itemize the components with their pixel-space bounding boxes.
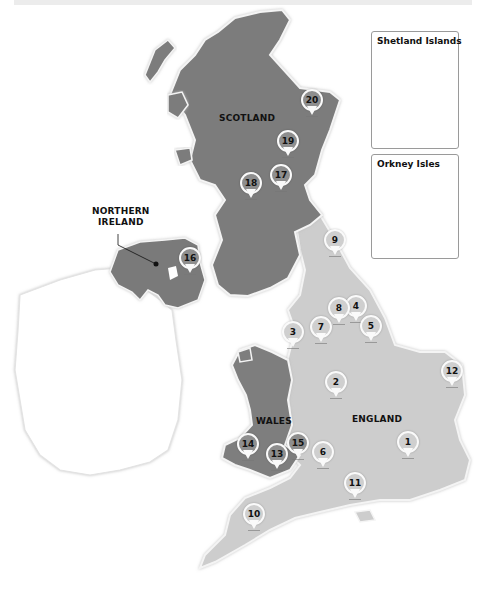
map-pin-13[interactable]: 13 xyxy=(266,443,288,475)
england-label: ENGLAND xyxy=(352,414,402,424)
map-pin-3[interactable]: 3 xyxy=(282,321,304,353)
isle-of-wight xyxy=(355,510,375,522)
western-isles xyxy=(145,40,175,82)
ireland-landmass xyxy=(15,268,182,475)
pin-tail xyxy=(249,520,259,529)
pin-shadow xyxy=(275,191,287,192)
map-pin-6[interactable]: 6 xyxy=(312,441,334,473)
pin-shadow xyxy=(349,499,361,500)
northern-ireland-label-line1: NORTHERN xyxy=(92,206,150,217)
map-pin-8[interactable]: 8 xyxy=(328,297,350,329)
pin-shadow xyxy=(330,398,342,399)
pin-shadow xyxy=(271,470,283,471)
map-pin-16[interactable]: 16 xyxy=(179,247,201,279)
pin-tail xyxy=(185,264,195,273)
shetland-inset: Shetland Islands xyxy=(371,31,459,149)
map-pin-11[interactable]: 11 xyxy=(344,472,366,504)
pin-tail xyxy=(316,333,326,342)
scotland-label: SCOTLAND xyxy=(219,113,275,123)
pin-tail xyxy=(447,377,457,386)
pin-shadow xyxy=(317,468,329,469)
pin-tail xyxy=(276,181,286,190)
map-pin-18[interactable]: 18 xyxy=(240,172,262,204)
pin-shadow xyxy=(184,274,196,275)
pin-shadow xyxy=(333,324,345,325)
map-pin-12[interactable]: 12 xyxy=(441,360,463,392)
map-pin-9[interactable]: 9 xyxy=(324,229,346,261)
pin-shadow xyxy=(306,116,318,117)
map-pin-5[interactable]: 5 xyxy=(360,315,382,347)
orkney-inset: Orkney Isles xyxy=(371,154,459,259)
pin-tail xyxy=(403,448,413,457)
pin-shadow xyxy=(315,343,327,344)
pin-shadow xyxy=(365,342,377,343)
pin-tail xyxy=(330,246,340,255)
pin-tail xyxy=(318,458,328,467)
pin-tail xyxy=(288,338,298,347)
map-pin-17[interactable]: 17 xyxy=(270,164,292,196)
map-pin-14[interactable]: 14 xyxy=(237,433,259,465)
pin-tail xyxy=(331,388,341,397)
pin-tail xyxy=(272,460,282,469)
pin-tail xyxy=(366,332,376,341)
northern-ireland-label: NORTHERN IRELAND xyxy=(92,206,150,228)
shetland-inset-title: Shetland Islands xyxy=(377,36,462,46)
map-pin-1[interactable]: 1 xyxy=(397,431,419,463)
pin-tail xyxy=(350,489,360,498)
northern-ireland-label-line2: IRELAND xyxy=(92,217,150,228)
mull-island xyxy=(175,148,192,165)
pin-tail xyxy=(307,106,317,115)
map-pin-19[interactable]: 19 xyxy=(277,130,299,162)
pin-tail xyxy=(246,189,256,198)
pin-shadow xyxy=(292,459,304,460)
pin-shadow xyxy=(242,460,254,461)
pin-shadow xyxy=(329,256,341,257)
map-pin-10[interactable]: 10 xyxy=(243,503,265,535)
orkney-inset-title: Orkney Isles xyxy=(377,159,440,169)
northern-ireland-marker xyxy=(154,262,159,267)
pin-shadow xyxy=(402,458,414,459)
map-pin-2[interactable]: 2 xyxy=(325,371,347,403)
wales-label: WALES xyxy=(256,416,292,426)
pin-shadow xyxy=(248,530,260,531)
pin-shadow xyxy=(245,199,257,200)
pin-tail xyxy=(293,449,303,458)
map-pin-15[interactable]: 15 xyxy=(287,432,309,464)
pin-shadow xyxy=(446,387,458,388)
map-pin-20[interactable]: 20 xyxy=(301,89,323,121)
pin-tail xyxy=(243,450,253,459)
pin-tail xyxy=(283,147,293,156)
pin-shadow xyxy=(282,157,294,158)
pin-shadow xyxy=(287,348,299,349)
pin-tail xyxy=(334,314,344,323)
